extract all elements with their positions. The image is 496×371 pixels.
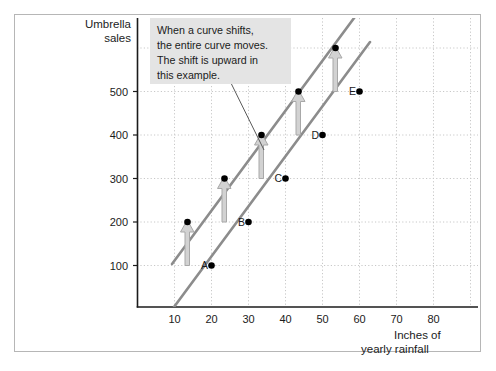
shift-arrow-c <box>255 133 269 179</box>
x-tick-label-10: 10 <box>168 313 180 325</box>
x-tick-label-40: 40 <box>279 313 291 325</box>
point-label-c: C <box>274 172 282 184</box>
point-e <box>356 88 363 95</box>
shift-arrow-d <box>292 90 306 136</box>
y-axis-title-line1: Umbrella <box>85 18 132 30</box>
figure-root: A B C D E 100 200 300 400 500 10 20 30 4… <box>0 0 496 371</box>
y-tick-label-500: 500 <box>110 86 128 98</box>
x-axis-title-line2: yearly rainfall <box>361 343 429 355</box>
point-label-d: D <box>311 129 319 141</box>
shift-arrow-a <box>181 220 195 266</box>
annotation-leader-line <box>227 75 264 150</box>
annotation-line-3: The shift is upward in <box>157 54 258 66</box>
annotation-line-2: the entire curve moves. <box>157 39 268 51</box>
point-label-a: A <box>201 259 208 271</box>
point-d <box>319 132 326 139</box>
x-tick-label-60: 60 <box>353 313 365 325</box>
y-tick-label-100: 100 <box>110 260 128 272</box>
y-axis-title-line2: sales <box>104 32 131 44</box>
x-tick-label-50: 50 <box>316 313 328 325</box>
y-tick-label-400: 400 <box>110 129 128 141</box>
y-tick-label-200: 200 <box>110 216 128 228</box>
x-tick-label-20: 20 <box>205 313 217 325</box>
shifted-point-3 <box>258 132 265 139</box>
shifted-point-4 <box>295 88 302 95</box>
chart-canvas: A B C D E 100 200 300 400 500 10 20 30 4… <box>0 0 496 371</box>
shifted-point-5 <box>332 45 339 52</box>
shifted-point-2 <box>221 175 228 182</box>
point-a <box>208 262 215 269</box>
point-label-b: B <box>238 216 245 228</box>
x-tick-label-70: 70 <box>390 313 402 325</box>
original-curve-points <box>208 88 363 269</box>
shifted-point-1 <box>184 219 191 226</box>
annotation-line-4: this example. <box>157 69 220 81</box>
point-label-e: E <box>349 85 356 97</box>
annotation-line-1: When a curve shifts, <box>157 24 254 36</box>
point-c <box>282 175 289 182</box>
x-axis-title-line1: Inches of <box>394 329 441 341</box>
y-tick-label-300: 300 <box>110 173 128 185</box>
point-b <box>245 219 252 226</box>
x-tick-label-80: 80 <box>427 313 439 325</box>
x-tick-label-30: 30 <box>242 313 254 325</box>
